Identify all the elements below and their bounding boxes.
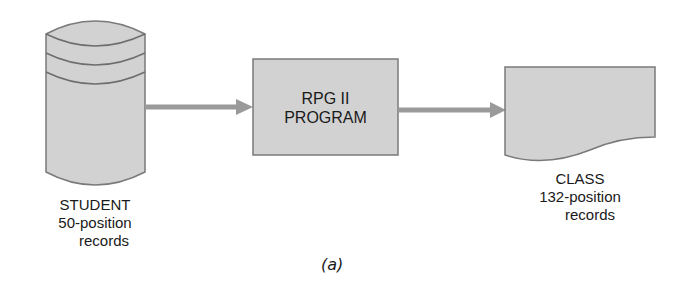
student-name: STUDENT [40, 196, 150, 214]
class-name: CLASS [520, 170, 640, 188]
arrow-student-to-program [145, 99, 253, 115]
program-name-line1: RPG II [253, 89, 398, 108]
figure-caption: (a) [321, 255, 343, 274]
student-record-unit: records [40, 232, 150, 250]
flow-diagram [0, 0, 683, 298]
student-disk-icon [46, 21, 145, 185]
program-label: RPG II PROGRAM [253, 89, 398, 127]
student-record-size: 50-position [40, 214, 150, 232]
class-document-icon [505, 67, 655, 160]
program-name-line2: PROGRAM [253, 108, 398, 127]
class-label: CLASS 132-position records [520, 170, 640, 224]
arrow-program-to-class [398, 102, 506, 118]
student-label: STUDENT 50-position records [40, 196, 150, 250]
class-record-size: 132-position [520, 188, 640, 206]
class-record-unit: records [520, 206, 640, 224]
